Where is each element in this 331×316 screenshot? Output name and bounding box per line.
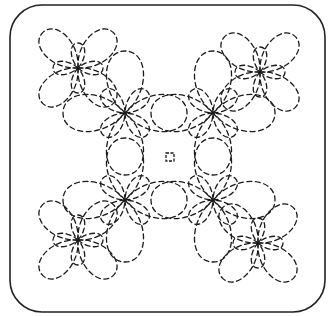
block-frame	[10, 5, 325, 312]
quilting-pattern-diagram	[0, 0, 331, 316]
